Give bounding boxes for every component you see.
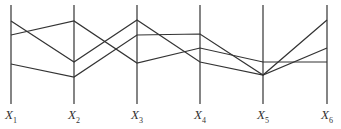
axis-label-x6: X6 — [321, 107, 333, 125]
data-polyline-1 — [11, 20, 327, 75]
axis-label-x4: X4 — [194, 107, 206, 125]
axis-label-x5: X5 — [257, 107, 269, 125]
parallel-coordinates-diagram: X1X2X3X4X5X6 — [0, 0, 341, 129]
axis-label-x1: X1 — [5, 107, 17, 125]
axis-label-x2: X2 — [68, 107, 80, 125]
plot-area — [0, 0, 341, 129]
axis-label-x3: X3 — [131, 107, 143, 125]
